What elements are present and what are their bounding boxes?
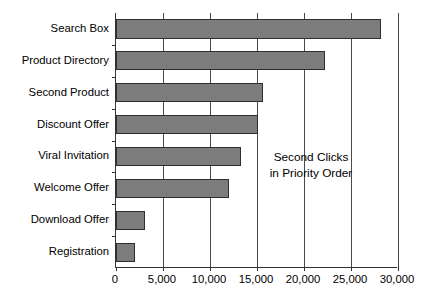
y-axis-tick — [112, 236, 116, 237]
bar — [116, 179, 229, 198]
x-axis-tick — [116, 267, 117, 271]
bar-band — [116, 83, 397, 102]
y-axis-category-label: Registration — [0, 246, 109, 257]
y-axis-category-label: Welcome Offer — [0, 182, 109, 193]
x-axis-tick-label: 15,000 — [239, 274, 274, 285]
bar — [116, 19, 381, 38]
y-axis-tick — [112, 109, 116, 110]
y-axis-tick — [112, 77, 116, 78]
x-axis-tick — [210, 267, 211, 271]
plot-area — [115, 13, 397, 268]
annotation-line-2: in Priority Order — [236, 166, 386, 182]
y-axis-tick — [112, 204, 116, 205]
y-axis-category-label: Search Box — [0, 23, 109, 34]
x-axis-tick — [351, 267, 352, 271]
bar — [116, 243, 135, 262]
x-axis-tick-label: 20,000 — [286, 274, 321, 285]
x-axis-tick-label: 10,000 — [192, 274, 227, 285]
y-axis-category-label: Viral Invitation — [0, 150, 109, 161]
bar-band — [116, 19, 397, 38]
x-axis-tick — [163, 267, 164, 271]
bar — [116, 115, 258, 134]
bar — [116, 51, 325, 70]
y-axis-tick — [112, 45, 116, 46]
bar-band — [116, 51, 397, 70]
bar-chart: Search BoxProduct DirectorySecond Produc… — [0, 0, 421, 305]
x-axis-tick-label: 30,000 — [380, 274, 415, 285]
y-axis-tick — [112, 141, 116, 142]
bar — [116, 211, 145, 230]
annotation-line-1: Second Clicks — [236, 150, 386, 166]
bar — [116, 147, 241, 166]
y-axis-category-label: Product Directory — [0, 55, 109, 66]
y-axis-tick — [112, 172, 116, 173]
x-axis-tick — [398, 267, 399, 271]
bar — [116, 83, 263, 102]
x-axis-tick — [257, 267, 258, 271]
y-axis-category-labels: Search BoxProduct DirectorySecond Produc… — [0, 0, 109, 305]
y-axis-category-label: Download Offer — [0, 214, 109, 225]
x-axis-tick-label: 25,000 — [333, 274, 368, 285]
bar-band — [116, 243, 397, 262]
x-axis-tick — [304, 267, 305, 271]
y-axis-category-label: Second Product — [0, 87, 109, 98]
bar-band — [116, 115, 397, 134]
y-axis-category-label: Discount Offer — [0, 119, 109, 130]
x-axis-tick-label: 0 — [112, 274, 118, 285]
gridline — [398, 13, 399, 267]
chart-annotation: Second Clicks in Priority Order — [236, 150, 386, 182]
x-axis-tick-label: 5,000 — [148, 274, 176, 285]
bar-band — [116, 211, 397, 230]
x-axis-tick-labels: 05,00010,00015,00020,00025,00030,000 — [0, 274, 421, 294]
